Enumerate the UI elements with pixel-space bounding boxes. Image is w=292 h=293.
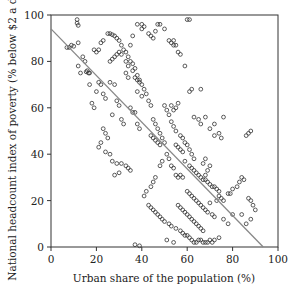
data-point [192, 220, 196, 224]
data-point [253, 208, 257, 212]
data-point [97, 145, 101, 149]
data-point [179, 206, 183, 210]
data-point [240, 176, 244, 180]
data-point [217, 236, 221, 240]
data-point [129, 169, 133, 173]
data-point [110, 57, 114, 61]
data-point [188, 236, 192, 240]
data-point [158, 215, 162, 219]
data-point [199, 122, 203, 126]
data-point [104, 97, 108, 101]
data-point [165, 108, 169, 112]
data-point [126, 166, 130, 170]
data-point [179, 134, 183, 138]
data-point [251, 203, 255, 207]
data-point [138, 80, 142, 84]
data-point [99, 141, 103, 145]
data-points [65, 18, 257, 248]
data-point [76, 41, 80, 45]
data-point [154, 29, 158, 33]
data-point [217, 189, 221, 193]
data-point [249, 129, 253, 133]
data-point [124, 164, 128, 168]
data-point [76, 64, 80, 68]
data-point [240, 213, 244, 217]
data-point [135, 90, 139, 94]
data-point [140, 27, 144, 31]
data-point [149, 134, 153, 138]
data-point [129, 60, 133, 64]
data-point [122, 48, 126, 52]
data-point [222, 115, 226, 119]
data-point [154, 176, 158, 180]
data-point [249, 199, 253, 203]
data-point [176, 145, 180, 149]
data-point [179, 53, 183, 57]
data-point [185, 143, 189, 147]
data-point [149, 206, 153, 210]
data-point [104, 150, 108, 154]
data-point [174, 173, 178, 177]
data-point [219, 136, 223, 140]
data-point [140, 22, 144, 26]
data-point [131, 62, 135, 66]
data-point [208, 238, 212, 242]
data-point [190, 152, 194, 156]
data-point [115, 99, 119, 103]
data-point [194, 222, 198, 226]
x-tick-label: 40 [135, 253, 148, 265]
data-point [179, 229, 183, 233]
data-point [185, 234, 189, 238]
data-point [183, 64, 187, 68]
data-point [158, 131, 162, 135]
data-point [151, 180, 155, 184]
y-axis-label: National headcount index of poverty (% b… [6, 0, 18, 281]
data-point [185, 189, 189, 193]
data-point [169, 164, 173, 168]
data-point [158, 22, 162, 26]
data-point [199, 87, 203, 91]
data-point [226, 222, 230, 226]
y-tick-label: 60 [31, 102, 44, 114]
data-point [197, 173, 201, 177]
data-point [181, 176, 185, 180]
data-point [199, 176, 203, 180]
data-point [249, 217, 253, 221]
data-point [183, 141, 187, 145]
data-point [206, 210, 210, 214]
data-point [174, 129, 178, 133]
data-point [194, 241, 198, 245]
y-tick-label: 40 [31, 148, 44, 160]
data-point [147, 32, 151, 36]
data-point [169, 120, 173, 124]
data-point [183, 210, 187, 214]
data-point [206, 180, 210, 184]
data-point [154, 122, 158, 126]
data-point [122, 122, 126, 126]
data-point [117, 39, 121, 43]
data-point [104, 131, 108, 135]
data-point [244, 222, 248, 226]
data-point [217, 131, 221, 135]
data-point [151, 208, 155, 212]
data-point [201, 206, 205, 210]
data-point [215, 187, 219, 191]
data-point [208, 164, 212, 168]
data-point [101, 39, 105, 43]
data-point [115, 162, 119, 166]
data-point [197, 201, 201, 205]
y-tick-label: 0 [37, 241, 44, 253]
regression-line [51, 29, 263, 247]
data-point [188, 192, 192, 196]
data-point [197, 224, 201, 228]
data-point [208, 183, 212, 187]
data-point [126, 64, 130, 68]
data-point [160, 217, 164, 221]
data-point [247, 131, 251, 135]
data-point [165, 238, 169, 242]
data-point [194, 171, 198, 175]
data-point [167, 113, 171, 117]
data-point [174, 106, 178, 110]
data-point [199, 227, 203, 231]
data-point [129, 43, 133, 47]
